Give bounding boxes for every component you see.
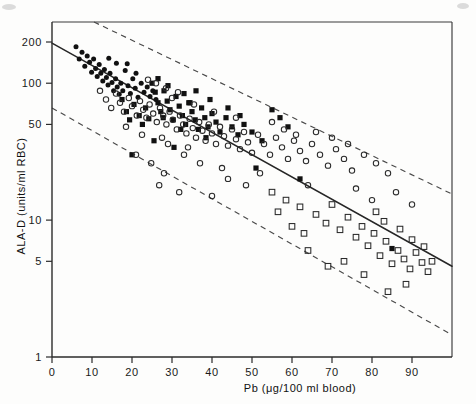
data-point [147, 102, 152, 107]
data-point [209, 193, 214, 198]
data-point [345, 214, 351, 220]
confidence-bands [52, 22, 452, 335]
data-point [353, 234, 359, 240]
data-point [409, 202, 414, 207]
data-point [373, 209, 379, 215]
data-point [297, 204, 303, 210]
data-point [139, 132, 144, 137]
data-point [140, 122, 145, 127]
data-point [389, 246, 394, 251]
data-point [397, 226, 403, 232]
x-tick-label: 90 [405, 366, 418, 378]
data-point [325, 263, 331, 269]
data-point [153, 90, 158, 95]
data-point [401, 256, 407, 262]
data-point [77, 57, 82, 62]
series-filled-square [119, 76, 394, 251]
data-points-layer [74, 44, 435, 294]
x-tick-label: 80 [365, 366, 378, 378]
data-point [190, 125, 195, 130]
data-point [241, 122, 246, 127]
data-point [325, 163, 330, 168]
y-tick-label: 10 [29, 214, 42, 226]
data-point [145, 84, 150, 89]
data-point [97, 62, 102, 67]
axes: 151050100200 0102030405060708090 [22, 22, 452, 378]
data-point [157, 182, 162, 187]
data-point [269, 189, 275, 195]
data-point [155, 100, 160, 105]
data-point [108, 71, 113, 76]
data-point [113, 76, 118, 81]
data-point [97, 88, 102, 93]
series-open-circle [97, 77, 414, 207]
data-point [241, 129, 246, 134]
data-point [253, 165, 258, 170]
data-point [353, 186, 358, 191]
data-point [133, 86, 138, 91]
data-point [275, 209, 281, 215]
data-point [193, 88, 198, 93]
data-point [407, 266, 413, 272]
data-point [181, 91, 186, 96]
data-point [361, 152, 366, 157]
data-point [257, 171, 262, 176]
data-point [245, 140, 250, 145]
data-point [87, 60, 92, 65]
data-point [151, 138, 156, 143]
data-point [317, 152, 322, 157]
data-point [118, 81, 123, 86]
y-tick-label: 1 [35, 351, 42, 363]
data-point [385, 289, 391, 295]
data-point [197, 161, 202, 166]
x-axis-title: Pb (μg/100 ml blood) [244, 382, 356, 394]
data-point [381, 219, 387, 225]
data-point [125, 61, 130, 66]
data-point [365, 243, 371, 249]
data-point [349, 168, 354, 173]
data-point [267, 152, 272, 157]
data-point [255, 132, 260, 137]
data-point [207, 97, 212, 102]
data-point [151, 111, 156, 116]
data-point [329, 202, 335, 208]
data-point [429, 259, 435, 265]
regression-line [52, 43, 452, 266]
x-tick-label: 40 [205, 366, 218, 378]
data-point [289, 224, 295, 230]
series-filled-circle [74, 44, 159, 102]
data-point [361, 272, 367, 278]
data-point [297, 148, 302, 153]
data-point [171, 145, 176, 150]
data-point [223, 115, 228, 120]
data-point [377, 253, 383, 259]
data-point [161, 171, 166, 176]
data-point [154, 119, 159, 124]
data-point [106, 56, 111, 61]
data-point [185, 145, 190, 150]
data-point [291, 138, 296, 143]
y-tick-label: 100 [22, 77, 42, 89]
data-point [164, 122, 169, 127]
data-point [425, 269, 431, 275]
data-point [313, 129, 318, 134]
data-point [139, 81, 144, 86]
data-point [283, 197, 289, 203]
data-point [80, 50, 85, 55]
data-point [115, 84, 120, 89]
data-point [165, 141, 170, 146]
data-point [184, 131, 189, 136]
data-point [341, 156, 346, 161]
data-point [389, 261, 395, 267]
data-point [333, 146, 338, 151]
data-point [225, 143, 230, 148]
data-point [403, 281, 409, 287]
data-point [142, 90, 147, 95]
data-point [273, 135, 278, 140]
data-point [104, 75, 109, 80]
data-point [109, 105, 114, 110]
data-point [74, 44, 79, 49]
x-tick-label: 60 [285, 366, 298, 378]
data-point [85, 54, 90, 59]
data-point [285, 156, 290, 161]
